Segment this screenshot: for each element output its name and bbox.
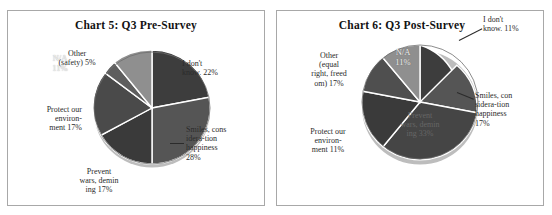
chart-6-label-i-dont-know: I don't know. 11% (483, 15, 539, 33)
chart-5-label-i-dont-know: I don't know. 22% (182, 59, 244, 77)
chart-5-label-prevent-wars: Prevent wars, demin ing 17% (64, 167, 134, 195)
chart-6-label-smiles: Smiles, con sidera-tion happiness 17% (475, 91, 537, 128)
chart-panel-left: Chart 5: Q3 Pre-Survey N/A 11% (7, 10, 265, 206)
chart-6-label-protect-environment: Protect our environ- ment 11% (295, 127, 361, 155)
chart-5-title: Chart 5: Q3 Pre-Survey (8, 19, 264, 31)
chart-5-label-protect-environment: Protect our environ- ment 17% (16, 105, 82, 133)
chart-5-label-smiles: Smiles, cons idera-tion happiness 28% (186, 125, 250, 162)
chart-panel-right: Chart 6: Q3 Post-Survey N/A 11% Prevent (276, 10, 544, 206)
figure-container: Chart 5: Q3 Pre-Survey N/A 11% (0, 0, 552, 215)
chart-5-label-other: Other (safety) 5% (46, 49, 108, 67)
chart-6-label-na: N/A 11% (381, 47, 425, 67)
chart-5-leader-smiles (170, 143, 184, 144)
chart-6-label-other: Other (equal right, freed om) 17% (299, 51, 359, 88)
chart-6-label-prevent-wars: Prevent wars, demin ing 33% (387, 111, 453, 138)
